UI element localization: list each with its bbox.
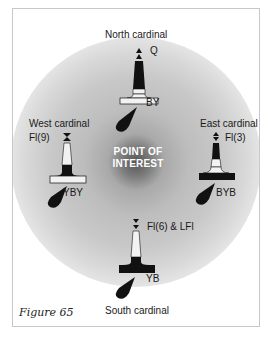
east-colour-code: BYB [216,187,236,198]
poi-line-1: POINT OF [108,146,168,158]
south-colour-code: YB [146,273,159,284]
poi-line-2: INTEREST [108,158,168,170]
north-cardinal-title: North cardinal [105,29,167,40]
south-light-code: Fl(6) & LFl [147,221,194,232]
north-colour-code: BY [146,97,159,108]
south-cardinal-title: South cardinal [105,305,169,316]
north-cardinal-buoy-icon [111,44,171,129]
east-cardinal-title: East cardinal [200,118,258,129]
west-cardinal-buoy-icon [41,129,101,214]
north-light-code: Q [150,45,158,56]
point-of-interest-label: POINT OF INTEREST [108,146,168,170]
west-colour-code: YBY [63,187,83,198]
west-cardinal-title: West cardinal [29,118,89,129]
figure-frame: POINT OF INTEREST North cardinal Q BY We… [12,8,260,327]
east-cardinal-buoy-icon [193,129,253,214]
figure-caption: Figure 65 [19,306,74,319]
